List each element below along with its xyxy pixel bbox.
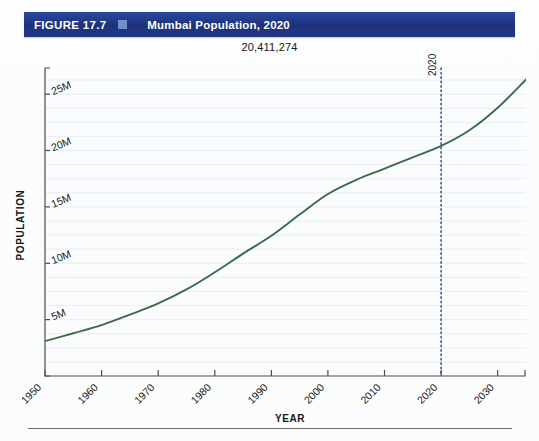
x-axis-title: YEAR: [275, 413, 305, 424]
x-tick-label: 1980: [188, 381, 213, 406]
x-tick-label: 2020: [415, 381, 440, 406]
population-line-chart: 5M10M15M20M25M 1950196019701980199020002…: [0, 0, 539, 441]
x-tick-label: 2000: [301, 381, 326, 406]
x-tick-label: 2030: [471, 381, 496, 406]
reference-line-label: 2020: [427, 53, 438, 76]
page-bottom-rule: [28, 428, 512, 429]
chart-area: 5M10M15M20M25M 1950196019701980199020002…: [0, 0, 539, 441]
x-tick-label: 1960: [75, 381, 100, 406]
y-axis-title: POPULATION: [15, 190, 26, 261]
x-tick-label: 1990: [245, 381, 270, 406]
x-tick-label: 2010: [358, 381, 383, 406]
x-tick-label: 1970: [132, 381, 157, 406]
x-tick-label: 1950: [18, 381, 43, 406]
